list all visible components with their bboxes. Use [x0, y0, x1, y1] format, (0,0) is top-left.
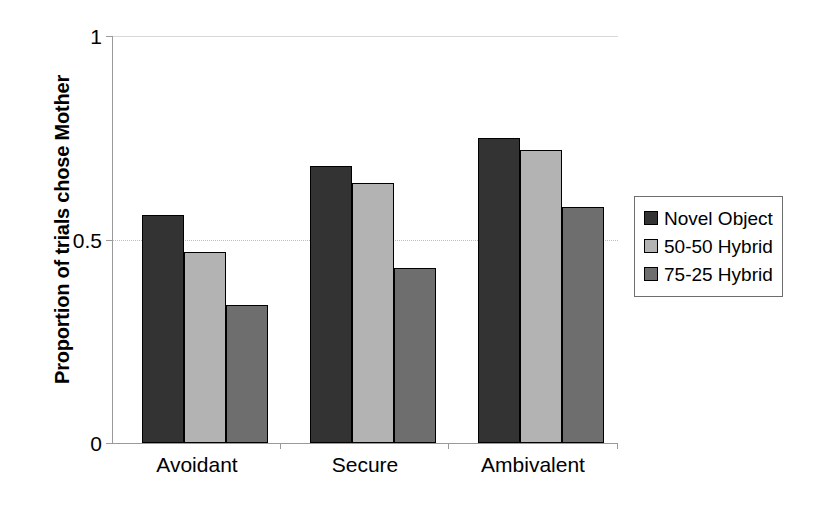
x-tick-mark-1 — [280, 443, 281, 449]
legend-item-75-25-hybrid: 75-25 Hybrid — [644, 260, 773, 288]
chart-legend: Novel Object 50-50 Hybrid 75-25 Hybrid — [634, 196, 783, 297]
y-axis-title: Proportion of trials chose Mother — [51, 20, 74, 440]
bar-secure-novel-object — [310, 166, 352, 443]
bar-secure-75-25-hybrid — [394, 268, 436, 443]
bar-avoidant-50-50-hybrid — [184, 252, 226, 443]
legend-label-50-50-hybrid: 50-50 Hybrid — [664, 237, 773, 256]
x-tick-mark-2 — [448, 443, 449, 449]
legend-item-novel-object: Novel Object — [644, 204, 773, 232]
y-tick-mark-1 — [106, 36, 113, 37]
bar-group-avoidant: Avoidant — [113, 36, 281, 443]
y-tick-label-0.5: 0.5 — [73, 229, 102, 250]
y-tick-mark-0.5 — [106, 240, 113, 241]
x-axis-line — [112, 443, 618, 444]
y-tick-label-1: 1 — [90, 26, 102, 47]
bar-chart-figure: Proportion of trials chose Mother 1 0.5 … — [0, 0, 824, 514]
y-tick-label-0: 0 — [90, 433, 102, 454]
bar-ambivalent-50-50-hybrid — [520, 150, 562, 443]
bar-secure-50-50-hybrid — [352, 183, 394, 443]
bar-ambivalent-novel-object — [478, 138, 520, 443]
bar-ambivalent-75-25-hybrid — [562, 207, 604, 443]
legend-label-novel-object: Novel Object — [664, 209, 773, 228]
bar-group-ambivalent: Ambivalent — [449, 36, 617, 443]
legend-swatch-75-25-hybrid-icon — [644, 267, 658, 281]
legend-swatch-50-50-hybrid-icon — [644, 239, 658, 253]
legend-swatch-novel-object-icon — [644, 211, 658, 225]
x-axis-label-ambivalent: Ambivalent — [433, 453, 633, 477]
bar-group-secure: Secure — [281, 36, 449, 443]
bar-avoidant-75-25-hybrid — [226, 305, 268, 443]
legend-item-50-50-hybrid: 50-50 Hybrid — [644, 232, 773, 260]
x-tick-mark-3 — [617, 443, 618, 449]
bar-avoidant-novel-object — [142, 215, 184, 443]
y-tick-mark-0 — [106, 443, 113, 444]
plot-area: 1 0.5 0 Avoidant Secure Ambivalent — [113, 36, 618, 443]
legend-label-75-25-hybrid: 75-25 Hybrid — [664, 265, 773, 284]
